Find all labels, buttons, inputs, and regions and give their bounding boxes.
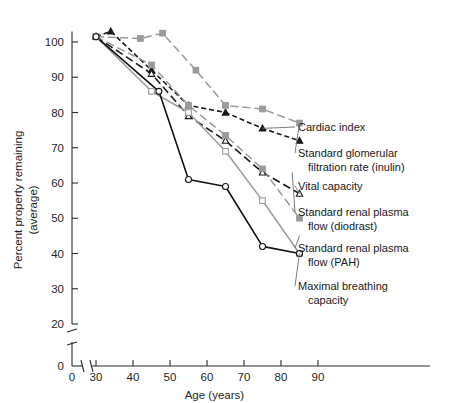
y-axis-tick-label: 40: [51, 248, 64, 260]
x-axis-tick-label: 50: [164, 371, 177, 383]
data-point: [223, 148, 229, 154]
data-point: [222, 109, 228, 115]
data-point: [223, 184, 229, 190]
chart-figure: 02030405060708090100304050607080900Age (…: [0, 0, 450, 403]
data-point: [108, 28, 114, 34]
data-point: [186, 103, 192, 109]
data-point: [156, 88, 162, 94]
y-axis-break-mark: [67, 329, 77, 332]
callout-label-vital-capacity: Vital capacity: [298, 180, 363, 192]
callout-label-standard-glomerular-filtration-rate: filtration rate (inulin): [308, 161, 405, 173]
data-point: [138, 36, 144, 42]
callout-label-cardiac-index: Cardiac index: [298, 121, 366, 133]
data-point: [149, 62, 155, 68]
callout-leader-cardiac-index: [263, 127, 296, 128]
x-axis-title: Age (years): [185, 389, 245, 401]
data-point: [260, 243, 266, 249]
y-axis-tick-label: 30: [51, 283, 64, 295]
y-axis-tick-label: 50: [51, 212, 64, 224]
series-lines: [96, 31, 300, 253]
data-point: [260, 166, 266, 172]
data-point: [149, 89, 155, 95]
callout-label-standard-glomerular-filtration-rate: Standard glomerular: [298, 147, 398, 159]
callout-label-standard-renal-plasma-flow-diodrast: flow (diodrast): [308, 220, 377, 232]
x-axis-tick-label: 40: [127, 371, 140, 383]
series-line-0: [96, 31, 300, 140]
data-point: [186, 176, 192, 182]
y-axis-tick-label: 70: [51, 142, 64, 154]
y-axis-tick-label: 80: [51, 107, 64, 119]
data-point: [223, 133, 229, 139]
series-line-2: [96, 37, 300, 194]
y-axis-tick-label: 60: [51, 177, 64, 189]
series-line-1: [96, 33, 300, 123]
callout-label-maximal-breathing-capacity: capacity: [308, 294, 349, 306]
callout-label-maximal-breathing-capacity: Maximal breathing: [298, 280, 388, 292]
y-axis-title-sub: (average): [27, 185, 39, 234]
data-point: [223, 103, 229, 109]
y-axis-title: Percent property remaining: [12, 131, 24, 270]
y-axis-tick-label: 20: [51, 318, 64, 330]
data-point: [160, 30, 166, 36]
callout-label-standard-renal-plasma-flow-diodrast: Standard renal plasma: [298, 206, 410, 218]
data-point: [93, 34, 99, 40]
callout-labels: Cardiac indexStandard glomerularfiltrati…: [263, 121, 410, 306]
aging-decline-line-chart: 02030405060708090100304050607080900Age (…: [0, 0, 450, 403]
y-axis-tick-label: 90: [51, 71, 64, 83]
x-axis-tick-label: 80: [275, 371, 288, 383]
data-point: [260, 198, 266, 204]
data-point: [186, 110, 192, 116]
data-point: [193, 67, 199, 73]
callout-label-standard-renal-plasma-flow-pah: flow (PAH): [308, 256, 360, 268]
data-point: [260, 106, 266, 112]
y-axis-tick-label: 100: [45, 36, 64, 48]
x-axis-tick-label: 30: [90, 371, 103, 383]
y-axis-tick-label: 0: [58, 360, 64, 372]
x-axis-tick-label: 70: [238, 371, 251, 383]
x-axis-origin-label: 0: [69, 371, 75, 383]
x-axis-tick-label: 60: [201, 371, 214, 383]
x-axis-tick-label: 90: [312, 371, 325, 383]
callout-leader-standard-renal-plasma-flow-diodrast: [292, 172, 295, 212]
callout-label-standard-renal-plasma-flow-pah: Standard renal plasma: [298, 242, 410, 254]
